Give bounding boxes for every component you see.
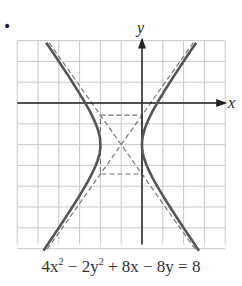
x-axis-label: x (227, 94, 235, 111)
eq-term-1: 4x (42, 257, 59, 276)
y-axis-label: y (135, 19, 145, 37)
axes (17, 38, 227, 245)
eq-term-2: − 2y (64, 257, 99, 276)
equation-caption: 4x2 − 2y2 + 8x − 8y = 8 (0, 256, 242, 277)
hyperbola-graph: • x y (0, 0, 242, 286)
eq-term-3: + 8x − 8y = 8 (104, 257, 201, 276)
bullet-marker: • (3, 18, 11, 34)
